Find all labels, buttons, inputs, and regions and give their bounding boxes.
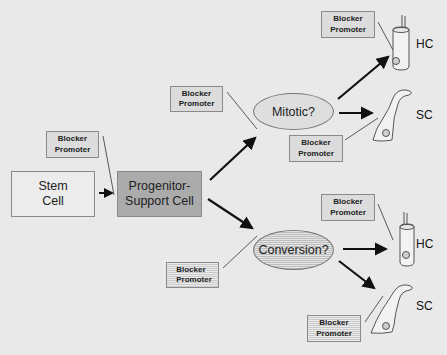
blocker-label: Blocker: [55, 134, 91, 145]
hc-label-top: HC: [416, 37, 433, 51]
hair-cell-icon-top: [393, 15, 410, 70]
blocker-promoter-conversion-sc: BlockerPromoter: [307, 315, 361, 342]
sc-label-top: SC: [416, 108, 433, 122]
blocker-promoter-conversion-hc: BlockerPromoter: [321, 194, 375, 221]
mitotic-decision-node: Mitotic?: [253, 93, 334, 130]
promoter-label: Promoter: [316, 329, 352, 340]
blocker-label: Blocker: [179, 89, 215, 100]
promoter-label: Promoter: [298, 149, 334, 160]
arrow-conversion-to-sc: [339, 261, 374, 288]
stem-cell-label-line1: Stem: [38, 179, 67, 194]
blocker-promoter-mitotic: BlockerPromoter: [170, 86, 223, 112]
hc-label-bottom: HC: [416, 237, 433, 251]
blocker-label: Blocker: [330, 14, 366, 25]
blocker-promoter-progenitor: BlockerPromoter: [46, 131, 99, 158]
blocker-promoter-mitotic-sc: BlockerPromoter: [289, 135, 343, 162]
blocker-label: Blocker: [330, 197, 366, 208]
arrow-progenitor-to-conversion: [208, 199, 252, 228]
sc-label-bottom: SC: [416, 299, 433, 313]
conversion-label: Conversion?: [258, 243, 328, 257]
blocker-label: Blocker: [316, 318, 352, 329]
promoter-label: Promoter: [330, 25, 366, 36]
support-cell-icon-top: [373, 90, 411, 141]
support-cell-icon-bottom: [371, 285, 412, 333]
conversion-decision-node: Conversion?: [253, 230, 334, 270]
promoter-label: Promoter: [179, 99, 215, 110]
mitotic-label: Mitotic?: [272, 105, 315, 119]
stem-cell-label-line2: Cell: [38, 194, 67, 209]
promoter-label: Promoter: [176, 275, 212, 286]
progenitor-label-line1: Progenitor-: [125, 179, 194, 194]
blocker-promoter-mitotic-hc: BlockerPromoter: [321, 11, 375, 38]
arrow-mitotic-to-hc: [338, 57, 388, 99]
blocker-label: Blocker: [298, 138, 334, 149]
blocker-promoter-conversion: BlockerPromoter: [166, 262, 219, 288]
promoter-label: Promoter: [55, 145, 91, 156]
progenitor-support-cell-node: Progenitor-Support Cell: [117, 171, 202, 217]
progenitor-label-line2: Support Cell: [125, 194, 194, 209]
promoter-label: Promoter: [330, 208, 366, 219]
arrow-progenitor-to-mitotic: [210, 138, 255, 180]
stem-cell-node: StemCell: [11, 171, 95, 217]
blocker-label: Blocker: [176, 265, 212, 276]
hair-cell-icon-bottom: [400, 212, 414, 266]
